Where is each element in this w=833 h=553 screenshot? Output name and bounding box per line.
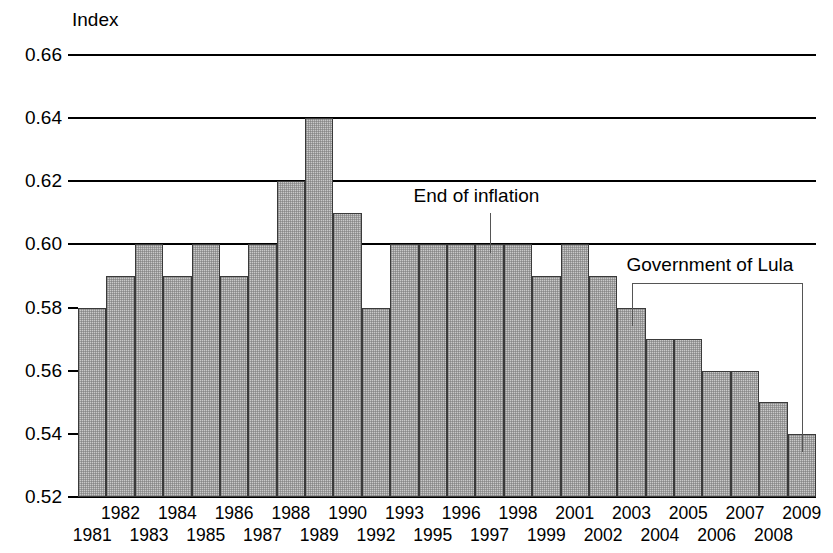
- y-axis-tick-label: 0.52: [0, 487, 62, 506]
- x-axis-tick-label: 1997: [470, 526, 509, 544]
- x-axis-tick-label: 1999: [527, 526, 566, 544]
- x-axis-tick-label: 1984: [158, 504, 197, 522]
- annotation-end-of-inflation-label: End of inflation: [414, 186, 540, 206]
- x-axis-tick-label: 1987: [243, 526, 282, 544]
- bar: [305, 118, 333, 497]
- x-axis-tick-label: 1996: [442, 504, 481, 522]
- x-axis-tick-label: 1982: [101, 504, 140, 522]
- y-axis-tick-label: 0.58: [0, 298, 62, 317]
- y-axis-tick-label: 0.62: [0, 171, 62, 190]
- bar: [333, 213, 361, 497]
- x-axis-tick-label: 1981: [73, 526, 112, 544]
- bar: [419, 244, 447, 497]
- y-axis-tick-label: 0.54: [0, 424, 62, 443]
- bar: [163, 276, 191, 497]
- x-axis-tick-label: 1988: [271, 504, 310, 522]
- bar: [248, 244, 276, 497]
- y-axis-tick-mark: [68, 433, 78, 435]
- annotation-government-of-lula-left-leg: [632, 283, 633, 326]
- x-axis-tick-label: 1992: [357, 526, 396, 544]
- x-axis-tick-label: 1983: [129, 526, 168, 544]
- bar: [731, 371, 759, 497]
- x-axis-tick-label: 1998: [498, 504, 537, 522]
- y-axis-tick-label: 0.56: [0, 361, 62, 380]
- y-axis-unit-label: Index: [72, 10, 118, 30]
- y-axis-tick-mark: [68, 370, 78, 372]
- bar: [589, 276, 617, 497]
- x-axis-tick-label: 1986: [215, 504, 254, 522]
- bar: [475, 244, 503, 497]
- x-axis-tick-label: 1995: [413, 526, 452, 544]
- x-axis-tick-label: 1993: [385, 504, 424, 522]
- annotation-end-of-inflation-leader-line: [490, 213, 491, 253]
- bar: [362, 308, 390, 497]
- x-axis-tick-label: 1989: [300, 526, 339, 544]
- bar: [504, 244, 532, 497]
- annotation-government-of-lula-bracket: [632, 283, 802, 284]
- y-axis-tick-mark: [68, 307, 78, 309]
- bar: [390, 244, 418, 497]
- bar: [277, 181, 305, 497]
- bar: [192, 244, 220, 497]
- y-axis-tick-label: 0.60: [0, 234, 62, 253]
- x-axis-tick-label: 1985: [186, 526, 225, 544]
- x-axis-tick-label: 2007: [726, 504, 765, 522]
- x-axis-tick-label: 2001: [555, 504, 594, 522]
- bar: [759, 402, 787, 497]
- bar: [106, 276, 134, 497]
- x-axis-tick-label: 2008: [754, 526, 793, 544]
- bar: [646, 339, 674, 497]
- bar: [135, 244, 163, 497]
- bar: [220, 276, 248, 497]
- bar: [617, 308, 645, 497]
- x-axis-tick-label: 2009: [782, 504, 821, 522]
- y-axis-tick-label: 0.66: [0, 45, 62, 64]
- x-axis-tick-label: 2002: [584, 526, 623, 544]
- bar: [78, 308, 106, 497]
- annotation-government-of-lula-right-leg: [802, 283, 803, 452]
- x-axis-tick-label: 2006: [697, 526, 736, 544]
- bar-chart-figure: Index 0.660.640.620.600.580.560.540.52 1…: [0, 0, 833, 553]
- x-axis-tick-label: 2003: [612, 504, 651, 522]
- x-axis-tick-label: 1990: [328, 504, 367, 522]
- bar: [702, 371, 730, 497]
- bar: [532, 276, 560, 497]
- x-axis-tick-label: 2005: [669, 504, 708, 522]
- y-axis-tick-label: 0.64: [0, 108, 62, 127]
- bar: [447, 244, 475, 497]
- annotation-government-of-lula-label: Government of Lula: [627, 255, 794, 275]
- bar: [674, 339, 702, 497]
- plot-area: [78, 55, 816, 497]
- bar: [561, 244, 589, 497]
- x-axis-tick-label: 2004: [640, 526, 679, 544]
